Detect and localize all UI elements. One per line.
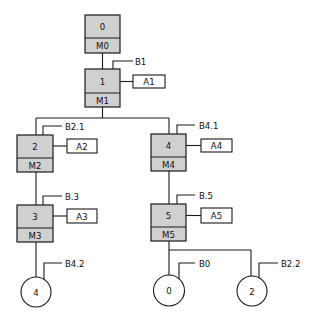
- condition-leader-b5: [177, 195, 195, 204]
- action-label: A5: [211, 210, 222, 221]
- step-marker: M3: [29, 230, 42, 241]
- step-number: 1: [100, 76, 105, 87]
- step-5[interactable]: 5 M5: [151, 204, 186, 241]
- step-number: 0: [100, 21, 105, 32]
- step-marker: M5: [162, 229, 175, 240]
- condition-leader-b2-1: [43, 126, 62, 135]
- condition-label-b4-2: B4.2: [65, 258, 84, 269]
- condition-leader-b4-1: [177, 125, 195, 134]
- step-marker: M0: [96, 40, 109, 51]
- terminal-2[interactable]: 2: [237, 276, 267, 306]
- action-box-a3[interactable]: A3: [67, 209, 97, 223]
- terminal-number: 4: [33, 287, 38, 298]
- condition-label-b4-1: B4.1: [199, 120, 218, 131]
- step-4[interactable]: 4 M4: [151, 134, 186, 171]
- step-1[interactable]: 1 M1: [85, 69, 120, 107]
- condition-label-b3: B.3: [65, 191, 79, 202]
- condition-leader-b4-2: [44, 263, 62, 280]
- step-number: 3: [32, 211, 37, 222]
- condition-label-b0: B0: [199, 258, 210, 269]
- condition-leader-b3: [43, 196, 62, 205]
- step-diagram: 0 M0 1 M1 B1 A1 2 M2 B2.1 A2 3 M3 B.3 A3: [0, 0, 315, 323]
- step-marker: M4: [162, 159, 175, 170]
- condition-leader-b2-2: [259, 263, 278, 279]
- condition-label-b5: B.5: [199, 190, 213, 201]
- step-0[interactable]: 0 M0: [85, 15, 120, 53]
- step-3[interactable]: 3 M3: [17, 205, 53, 242]
- step-marker: M2: [29, 160, 42, 171]
- condition-leader-b0: [179, 263, 195, 279]
- action-box-a2[interactable]: A2: [67, 139, 97, 153]
- terminal-number: 0: [166, 285, 171, 296]
- action-box-a4[interactable]: A4: [201, 139, 232, 152]
- step-number: 4: [166, 140, 171, 151]
- terminal-number: 2: [249, 286, 254, 297]
- action-label: A2: [76, 141, 87, 152]
- terminal-0[interactable]: 0: [154, 275, 185, 306]
- action-label: A4: [211, 140, 222, 151]
- terminal-4[interactable]: 4: [21, 277, 51, 307]
- step-marker: M1: [96, 95, 109, 106]
- step-number: 2: [32, 141, 37, 152]
- condition-label-b2-1: B2.1: [65, 121, 84, 132]
- condition-label-b1: B1: [135, 56, 146, 67]
- action-box-a5[interactable]: A5: [201, 208, 232, 223]
- step-2[interactable]: 2 M2: [17, 135, 53, 172]
- action-label: A3: [76, 211, 87, 222]
- step-number: 5: [166, 210, 171, 221]
- action-label: A1: [143, 76, 154, 87]
- condition-label-b2-2: B2.2: [281, 258, 300, 269]
- action-box-a1[interactable]: A1: [133, 75, 165, 88]
- condition-leader-b1: [113, 61, 133, 69]
